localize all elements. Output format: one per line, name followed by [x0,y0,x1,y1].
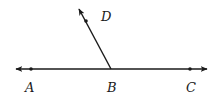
geometry-diagram: A B C D [0,0,215,94]
label-a: A [24,80,34,94]
point-a-dot [29,67,33,71]
label-c: C [186,80,196,94]
label-d: D [100,9,112,24]
point-d-dot [84,19,88,23]
point-c-dot [188,67,192,71]
label-b: B [106,80,117,94]
